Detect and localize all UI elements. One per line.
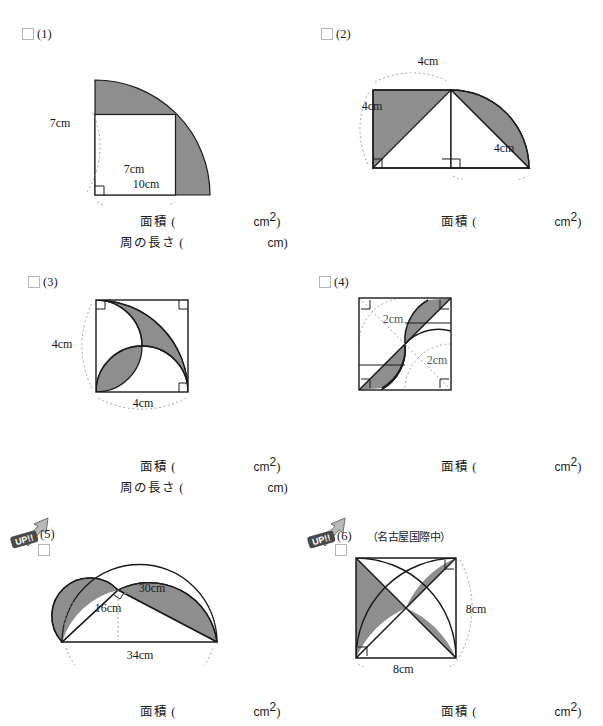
unit-label: cm <box>268 481 284 495</box>
answer-line-area-5: 面積 ( cm2) <box>140 700 280 720</box>
unit-label: cm <box>268 236 284 250</box>
worksheet-page: (1) 7cm 7cm <box>0 0 603 726</box>
dimension-label: 4cm <box>133 396 154 410</box>
paren-close: ) <box>276 460 280 474</box>
dimension-label: 4cm <box>52 337 73 351</box>
figure-problem-3: 4cm 4cm <box>0 292 301 421</box>
answer-line-perimeter-1: 周の長さ ( cm) <box>120 232 288 251</box>
figure-problem-2: 4cm 4cm 4cm <box>301 40 603 184</box>
dimension-label: 4cm <box>362 99 383 113</box>
unit-label: cm <box>555 705 571 719</box>
dimension-label: 4cm <box>418 54 439 68</box>
answer-line-perimeter-3: 周の長さ ( cm) <box>120 477 288 496</box>
dimension-label: 7cm <box>124 162 145 176</box>
dimension-label: 2cm <box>427 353 448 367</box>
answer-label-area: 面積 <box>441 214 469 229</box>
answer-label-area: 面積 <box>140 459 168 474</box>
answer-label-area: 面積 <box>140 214 168 229</box>
checkbox-problem-4[interactable] <box>319 276 331 288</box>
paren-close: ) <box>284 236 288 250</box>
dimension-label: 10cm <box>133 177 160 191</box>
unit-label: cm <box>254 460 270 474</box>
problem-4-number: (4) <box>334 276 349 289</box>
answer-line-area-2: 面積 ( cm2) <box>441 210 581 230</box>
answer-line-area-3: 面積 ( cm2) <box>140 455 280 475</box>
dimension-label: 8cm <box>466 602 487 616</box>
answer-line-area-1: 面積 ( cm2) <box>140 210 280 230</box>
figure-problem-6: 8cm 8cm <box>301 552 603 671</box>
problem-5-header: (5) <box>40 528 55 541</box>
paren-open: ( <box>472 705 476 719</box>
problem-1-header: (1) <box>22 28 52 41</box>
problem-3-header: (3) <box>28 276 58 289</box>
unit-label: cm <box>555 215 571 229</box>
dimension-label-bottom-6: 8cm <box>393 662 414 677</box>
paren-open: ( <box>179 236 183 250</box>
problem-3-number: (3) <box>43 276 58 289</box>
up-badge-label: UP!! <box>311 532 332 547</box>
problem-6-header: (6) （名古屋国際中） <box>337 528 451 544</box>
answer-label-perimeter: 周の長さ <box>120 235 176 250</box>
checkbox-problem-1[interactable] <box>22 28 34 40</box>
dimension-label: 16cm <box>95 601 122 615</box>
answer-line-area-4: 面積 ( cm2) <box>441 455 581 475</box>
problem-5-number: (5) <box>40 528 55 541</box>
figure-problem-1: 7cm 7cm 10cm <box>0 40 301 209</box>
checkbox-problem-3[interactable] <box>28 276 40 288</box>
figure-problem-4: 2cm 2cm <box>301 292 603 421</box>
dimension-label: 7cm <box>50 116 71 130</box>
paren-close: ) <box>284 481 288 495</box>
problem-4-header: (4) <box>319 276 349 289</box>
paren-close: ) <box>276 705 280 719</box>
unit-label: cm <box>254 705 270 719</box>
paren-open: ( <box>171 705 175 719</box>
answer-line-area-6: 面積 ( cm2) <box>441 700 581 720</box>
unit-label: cm <box>254 215 270 229</box>
paren-open: ( <box>472 215 476 229</box>
paren-close: ) <box>577 215 581 229</box>
paren-close: ) <box>577 460 581 474</box>
paren-open: ( <box>171 460 175 474</box>
problem-2-number: (2) <box>336 28 351 41</box>
paren-open: ( <box>171 215 175 229</box>
figure-problem-5: 30cm 16cm 34cm <box>0 540 301 669</box>
answer-label-area: 面積 <box>441 459 469 474</box>
unit-label: cm <box>555 460 571 474</box>
dimension-label: 34cm <box>127 648 154 662</box>
dimension-label: 30cm <box>139 581 166 595</box>
paren-close: ) <box>276 215 280 229</box>
problem-6-source: （名古屋国際中） <box>367 528 451 544</box>
paren-open: ( <box>472 460 476 474</box>
paren-close: ) <box>577 705 581 719</box>
dimension-label: 2cm <box>383 312 404 326</box>
problem-6-number: (6) <box>337 530 352 543</box>
problem-1-number: (1) <box>37 28 52 41</box>
problem-2-header: (2) <box>321 28 351 41</box>
paren-open: ( <box>179 481 183 495</box>
answer-label-area: 面積 <box>140 704 168 719</box>
answer-label-perimeter: 周の長さ <box>120 480 176 495</box>
checkbox-problem-2[interactable] <box>321 28 333 40</box>
answer-label-area: 面積 <box>441 704 469 719</box>
dimension-label: 4cm <box>494 141 515 155</box>
